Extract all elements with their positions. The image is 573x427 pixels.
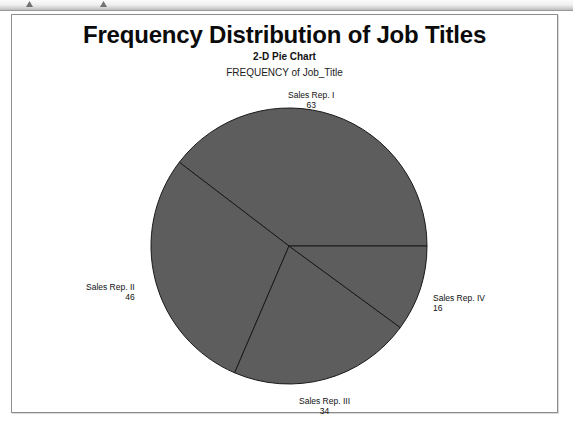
pie-slice-label: Sales Rep. IV 16 xyxy=(433,293,485,313)
pie-slice-label-value: 16 xyxy=(433,303,485,313)
triangle-marker-icon xyxy=(100,1,107,7)
pie-chart-graphic xyxy=(12,15,559,414)
pie-slice-label-value: 63 xyxy=(288,100,334,110)
pie-slice-group xyxy=(151,108,427,384)
pie-chart-plot-area: Sales Rep. I 63 Sales Rep. II 46 Sales R… xyxy=(12,15,559,414)
pie-slice-label: Sales Rep. II 46 xyxy=(86,282,135,302)
pie-slice-label: Sales Rep. III 34 xyxy=(299,396,350,416)
application-toolbar[interactable] xyxy=(0,0,573,11)
triangle-marker-icon xyxy=(26,1,33,7)
report-page-frame: Frequency Distribution of Job Titles 2-D… xyxy=(11,14,558,413)
pie-slice-label-value: 34 xyxy=(299,406,350,416)
pie-slice-label-name: Sales Rep. II xyxy=(86,282,135,292)
pie-slice-label: Sales Rep. I 63 xyxy=(288,90,334,110)
pie-slice-label-name: Sales Rep. III xyxy=(299,396,350,406)
pie-slice-label-value: 46 xyxy=(86,292,135,302)
pie-slice-label-name: Sales Rep. I xyxy=(288,90,334,100)
pie-slice-label-name: Sales Rep. IV xyxy=(433,293,485,303)
